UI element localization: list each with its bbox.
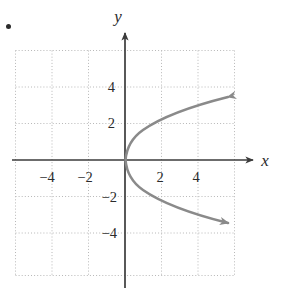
y-tick-label-4: 4 [108,79,116,95]
y-axis-label: y [112,7,122,26]
y-tick-label-neg4: −4 [102,225,118,241]
y-tick-label-2: 2 [108,115,115,131]
x-tick-label-neg2: −2 [77,169,92,185]
x-tick-label-4: 4 [192,169,200,185]
y-tick-label-neg2: −2 [102,189,117,205]
x-tick-label-neg4: −4 [39,169,55,185]
x-tick-label-2: 2 [156,169,163,185]
coordinate-plane: y x −4 −2 2 4 4 2 −2 −4 [0,0,282,302]
graph-figure: y x −4 −2 2 4 4 2 −2 −4 [0,0,282,302]
x-axis-label: x [260,151,269,170]
